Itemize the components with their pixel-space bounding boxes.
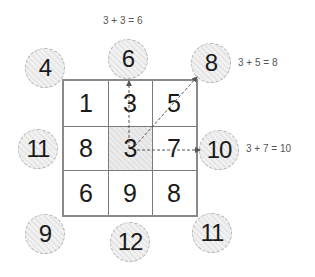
arrow-diagonal-icon — [135, 77, 197, 146]
dashed-arrows — [0, 0, 315, 277]
